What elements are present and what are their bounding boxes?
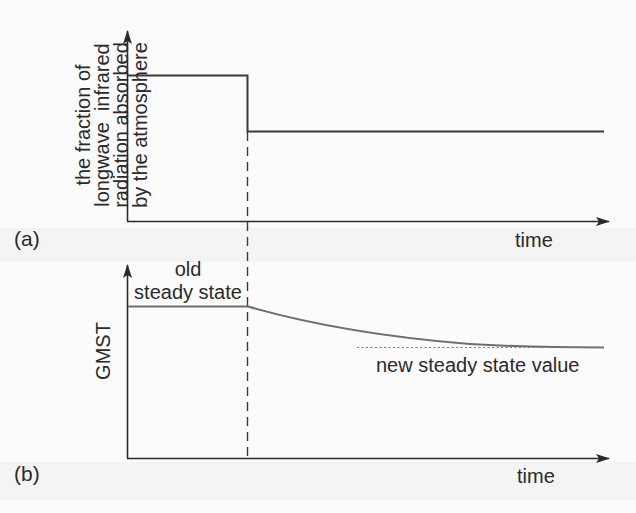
panel-a-label: (a) [14,228,40,250]
figure: the fraction of longwave infrared radiat… [0,0,636,513]
new-steady-state-annotation: new steady state value [376,354,579,376]
old-steady-state-annotation: old steady state [133,258,243,304]
panel-b-gmst-curve [128,307,604,348]
old-steady-state-line1: old [133,258,243,281]
panel-a-step-line [128,76,604,132]
old-steady-state-line2: steady state [133,281,243,304]
panel-b-x-axis-label: time [517,465,555,487]
panel-a-x-axis-label: time [515,229,553,251]
gmst-label: GMST [92,322,115,380]
panel-b-label: (b) [14,463,40,485]
ylabel-line: by the atmosphere [131,42,150,208]
